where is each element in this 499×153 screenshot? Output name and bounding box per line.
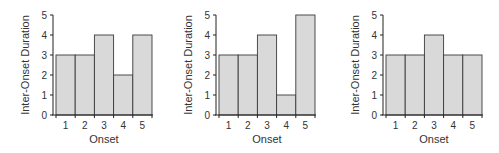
bar-2 <box>238 55 257 115</box>
x-tick-label: 1 <box>63 120 69 131</box>
chart-canvas: 01234512345OnsetInter-Onset Duration0123… <box>0 0 499 153</box>
y-tick-label: 5 <box>371 10 377 21</box>
bar-4 <box>444 55 463 115</box>
y-tick-label: 0 <box>41 110 47 121</box>
bar-3 <box>94 35 113 115</box>
x-tick-label: 3 <box>431 120 437 131</box>
x-tick-label: 4 <box>283 120 289 131</box>
bar-3 <box>257 35 276 115</box>
bar-chart-2: 01234512345OnsetInter-Onset Duration <box>182 10 316 146</box>
bar-1 <box>56 55 75 115</box>
bar-1 <box>219 55 238 115</box>
bar-2 <box>405 55 424 115</box>
x-axis-label: Onset <box>89 133 118 145</box>
x-tick-label: 3 <box>264 120 270 131</box>
y-tick-label: 0 <box>204 110 210 121</box>
x-tick-label: 5 <box>470 120 476 131</box>
x-tick-label: 2 <box>82 120 88 131</box>
y-axis-label: Inter-Onset Duration <box>349 15 361 115</box>
x-axis-label: Onset <box>252 133 281 145</box>
y-tick-label: 2 <box>371 70 377 81</box>
y-tick-label: 1 <box>41 90 47 101</box>
y-axis-label: Inter-Onset Duration <box>182 15 194 115</box>
y-tick-label: 1 <box>371 90 377 101</box>
y-axis-label: Inter-Onset Duration <box>19 15 31 115</box>
x-tick-label: 1 <box>393 120 399 131</box>
y-tick-label: 4 <box>41 30 47 41</box>
x-tick-label: 2 <box>245 120 251 131</box>
bar-5 <box>296 15 315 115</box>
bar-chart-1: 01234512345OnsetInter-Onset Duration <box>19 10 153 146</box>
x-tick-label: 1 <box>226 120 232 131</box>
y-tick-label: 1 <box>204 90 210 101</box>
x-tick-label: 3 <box>101 120 107 131</box>
chart-figure: 01234512345OnsetInter-Onset Duration0123… <box>0 0 499 153</box>
x-tick-label: 2 <box>412 120 418 131</box>
bar-3 <box>424 35 443 115</box>
y-tick-label: 4 <box>371 30 377 41</box>
y-tick-label: 2 <box>204 70 210 81</box>
bar-4 <box>114 75 133 115</box>
bar-chart-3: 01234512345OnsetInter-Onset Duration <box>349 10 483 146</box>
x-axis-label: Onset <box>419 133 448 145</box>
x-tick-label: 4 <box>450 120 456 131</box>
bar-1 <box>386 55 405 115</box>
y-tick-label: 5 <box>41 10 47 21</box>
bar-5 <box>463 55 482 115</box>
y-tick-label: 5 <box>204 10 210 21</box>
bar-5 <box>133 35 152 115</box>
y-tick-label: 4 <box>204 30 210 41</box>
y-tick-label: 0 <box>371 110 377 121</box>
bar-2 <box>75 55 94 115</box>
y-tick-label: 3 <box>41 50 47 61</box>
x-tick-label: 5 <box>303 120 309 131</box>
y-tick-label: 3 <box>204 50 210 61</box>
y-tick-label: 3 <box>371 50 377 61</box>
x-tick-label: 5 <box>140 120 146 131</box>
x-tick-label: 4 <box>120 120 126 131</box>
bar-4 <box>277 95 296 115</box>
y-tick-label: 2 <box>41 70 47 81</box>
